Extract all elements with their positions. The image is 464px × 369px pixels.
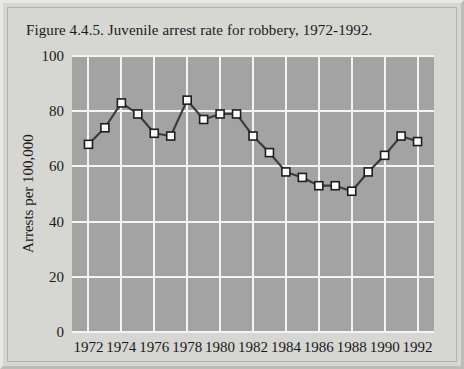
x-tick-label: 1988	[337, 339, 367, 356]
x-tick-label: 1974	[106, 339, 136, 356]
data-point-marker	[84, 140, 92, 148]
data-point-marker	[331, 182, 339, 190]
data-point-marker	[348, 187, 356, 195]
data-point-marker	[397, 132, 405, 140]
data-point-marker	[167, 132, 175, 140]
data-point-marker	[265, 149, 273, 157]
data-point-marker	[249, 132, 257, 140]
y-tick-label: 0	[57, 324, 65, 341]
data-point-marker	[364, 168, 372, 176]
y-tick-label: 20	[49, 268, 64, 285]
x-tick-label: 1986	[304, 339, 334, 356]
x-tick-label: 1978	[172, 339, 202, 356]
y-tick-label: 80	[49, 103, 64, 120]
x-tick-label: 1992	[403, 339, 433, 356]
data-series-line	[72, 56, 434, 332]
figure-inner-frame: Figure 4.4.5. Juvenile arrest rate for r…	[7, 7, 457, 362]
data-point-marker	[117, 99, 125, 107]
chart-plot-area: Arrests per 100,000 020406080100 1972197…	[72, 56, 434, 332]
x-tick-label: 1982	[238, 339, 268, 356]
data-point-marker	[200, 115, 208, 123]
y-tick-label: 100	[42, 48, 65, 65]
x-tick-label: 1984	[271, 339, 301, 356]
y-tick-label: 60	[49, 158, 64, 175]
data-point-marker	[298, 173, 306, 181]
figure-title: Figure 4.4.5. Juvenile arrest rate for r…	[26, 22, 372, 39]
data-point-marker	[216, 110, 224, 118]
data-point-marker	[101, 124, 109, 132]
x-tick-label: 1990	[370, 339, 400, 356]
y-axis-title: Arrests per 100,000	[20, 74, 37, 314]
data-point-marker	[183, 96, 191, 104]
data-point-marker	[315, 182, 323, 190]
data-point-marker	[381, 151, 389, 159]
data-point-marker	[282, 168, 290, 176]
data-point-marker	[414, 138, 422, 146]
y-tick-label: 40	[49, 213, 64, 230]
figure-panel: Figure 4.4.5. Juvenile arrest rate for r…	[0, 0, 464, 369]
x-tick-label: 1972	[73, 339, 103, 356]
data-point-marker	[233, 110, 241, 118]
data-point-marker	[134, 110, 142, 118]
x-tick-label: 1976	[139, 339, 169, 356]
x-tick-label: 1980	[205, 339, 235, 356]
data-point-marker	[150, 129, 158, 137]
